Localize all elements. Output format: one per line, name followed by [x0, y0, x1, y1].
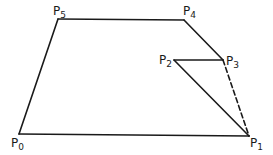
edge-p3-p1-dashed [223, 60, 249, 136]
vertex-label-p1: P1 [250, 136, 263, 152]
vertex-label-p5: P5 [53, 4, 66, 20]
vertex-labels: P0P1P2P3P4P5 [11, 4, 263, 152]
edge-p5-p0 [19, 19, 58, 134]
vertex-label-p3: P3 [226, 54, 239, 70]
edge-p4-p5 [58, 19, 184, 20]
vertex-label-p2: P2 [159, 53, 172, 69]
edge-p1-p2 [174, 60, 249, 136]
edge-p3-p4 [184, 20, 223, 60]
vertex-label-p0: P0 [11, 136, 24, 152]
vertex-label-p4: P4 [183, 4, 196, 20]
edge-p0-p1 [19, 134, 249, 136]
polygon-edges [19, 19, 249, 136]
polygon-diagram: P0P1P2P3P4P5 [0, 0, 273, 155]
